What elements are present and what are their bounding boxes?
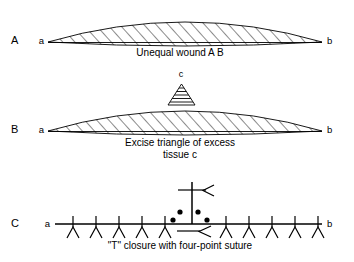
panel-c-left-label: a (45, 218, 51, 229)
panel-a-caption: Unequal wound A B (136, 47, 224, 58)
panel-a-right-label: b (327, 35, 332, 46)
suture-dot (170, 217, 175, 222)
panel-c-letter: C (11, 217, 19, 229)
panel-a-letter: A (11, 34, 19, 46)
panel-b-caption-line1: Excise triangle of excess (125, 137, 235, 148)
panel-c-caption: "T" closure with four-point suture (108, 240, 253, 251)
panel-b-letter: B (11, 123, 18, 135)
panel-b-left-label: a (39, 124, 45, 135)
panel-b-apex-label: c (179, 69, 184, 79)
panel-c-right-label: b (327, 218, 332, 229)
suture-dot (204, 217, 209, 222)
panel-a-left-label: a (39, 35, 45, 46)
surgical-technique-figure: A a b Unequal wound A B B a b c (0, 0, 354, 262)
suture-dot (195, 209, 200, 214)
suture-dot (177, 209, 182, 214)
panel-b-right-label: b (327, 124, 332, 135)
panel-b-caption-line2: tissue c (163, 149, 197, 160)
